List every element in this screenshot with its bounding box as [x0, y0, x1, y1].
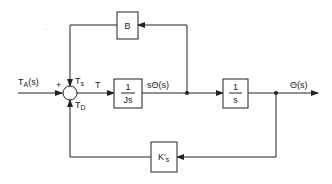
block-b: B	[117, 12, 138, 39]
velocity-label: sΘ(s)	[147, 80, 169, 90]
sum-plus-sign: +	[56, 80, 61, 90]
output-label: Θ(s)	[290, 80, 308, 90]
speck	[45, 28, 46, 29]
torque-label: T	[95, 80, 101, 90]
block-diagram: TA(s) + Ts TD T 1 Js sΘ(s) 1 s Θ(s) B K′…	[0, 0, 332, 184]
sum-bottom-label: TD	[75, 100, 86, 111]
input-label: TA(s)	[18, 77, 39, 88]
svg-text:1: 1	[125, 82, 130, 92]
block-1-over-js: 1 Js	[114, 79, 142, 108]
block-k-s: K′s	[151, 142, 177, 172]
sum-top-label: Ts	[75, 76, 85, 87]
svg-text:1: 1	[233, 82, 238, 92]
summing-junction	[63, 86, 77, 100]
svg-text:Js: Js	[124, 95, 134, 105]
svg-text:B: B	[124, 21, 130, 31]
svg-text:s: s	[233, 95, 238, 105]
block-1-over-s: 1 s	[223, 79, 248, 108]
